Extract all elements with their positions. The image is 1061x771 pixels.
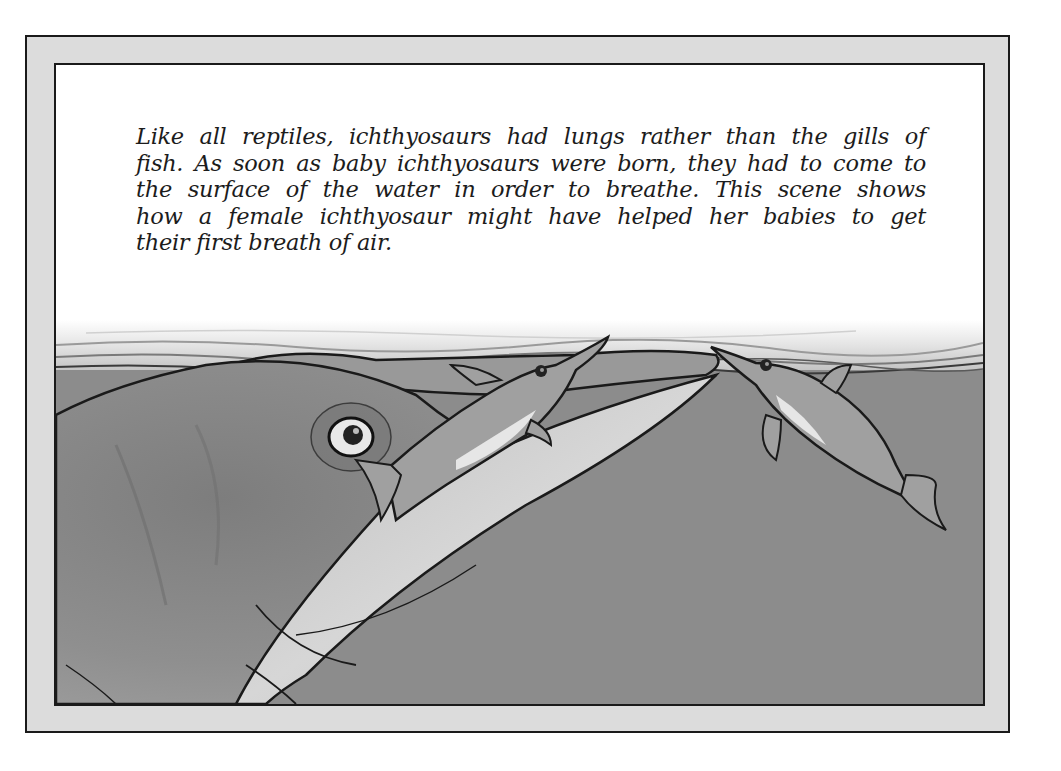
mother-eye (311, 403, 391, 471)
caption-text: Like all reptiles, ichthyosaurs had lung… (136, 123, 926, 256)
caption-line: fish. As soon as baby ichthyosaurs were … (136, 150, 926, 177)
caption-line: how a female ichthyosaur might have help… (136, 203, 926, 230)
caption-line: the surface of the water in order to bre… (136, 176, 926, 203)
caption-line: their first breath of air. (136, 229, 926, 256)
illustration-panel: Like all reptiles, ichthyosaurs had lung… (54, 63, 985, 706)
caption-line: Like all reptiles, ichthyosaurs had lung… (136, 123, 926, 150)
